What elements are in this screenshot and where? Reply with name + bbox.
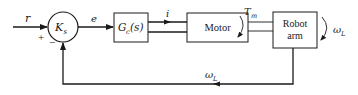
motor-label: Motor [204, 22, 231, 33]
control-block-diagram: r K s + − e G c (s) i Motor T m [0, 0, 358, 95]
robot-arm-line1: Robot [283, 18, 308, 29]
controller-block: G c (s) [114, 13, 148, 42]
error-label: e [91, 13, 97, 24]
plus-sign: + [38, 31, 44, 43]
feedback-subscript: L [212, 75, 217, 83]
current-signal-i: i [148, 8, 187, 32]
input-label: r [25, 12, 31, 25]
gain-label: K [54, 21, 64, 34]
robot-arm-line2: arm [287, 30, 303, 41]
summing-junction: K s + − [38, 12, 78, 48]
output-subscript: L [340, 30, 345, 38]
feedback-path: ω L [63, 43, 293, 87]
minus-sign: − [49, 36, 55, 48]
robot-arm-block: Robot arm [273, 12, 317, 48]
gain-subscript: s [64, 28, 68, 36]
torque-subscript: m [251, 12, 257, 20]
output-signal-omega: ω L [321, 17, 345, 40]
output-rotation-arrow-icon [321, 17, 327, 40]
feedback-label: ω [205, 69, 213, 80]
output-label: ω [333, 24, 341, 35]
controller-suffix: (s) [130, 21, 144, 33]
input-signal-r: r [13, 12, 47, 27]
motor-block: Motor [187, 13, 248, 42]
error-signal-e: e [78, 13, 113, 27]
current-label: i [166, 8, 169, 19]
